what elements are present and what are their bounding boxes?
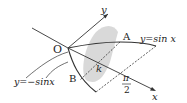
pi-numerator: π: [122, 73, 130, 83]
point-b-label: B: [69, 73, 76, 84]
param-k-label: k: [96, 63, 102, 74]
curve-sin-label: y=sin x: [139, 33, 176, 44]
origin-label: O: [53, 43, 62, 56]
curve-neg-sin-label: y=−sinx: [13, 76, 55, 87]
y-axis-label: y: [100, 4, 107, 15]
x-axis-label: x: [152, 91, 158, 102]
point-a-label: A: [122, 31, 131, 42]
solid-cross-section-diagram: O y x A B k π 2 y=sin x y=−sinx: [0, 0, 187, 103]
left-axis-line: [32, 28, 68, 48]
pi-denominator: 2: [124, 85, 130, 95]
